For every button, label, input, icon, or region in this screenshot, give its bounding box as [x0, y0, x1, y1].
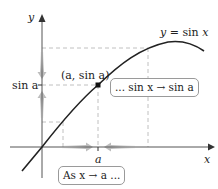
- x-axis-arrow-icon: [208, 144, 215, 151]
- sine-curve: [22, 41, 204, 171]
- point-label: (a, sin a): [61, 70, 109, 81]
- y-tick-label: sin a: [12, 80, 38, 91]
- curve-label: y = sin x: [160, 27, 208, 38]
- dashed-guides: [42, 48, 148, 147]
- annotation-x-box: As x → a ...: [58, 166, 125, 185]
- y-axis-arrow-icon: [39, 14, 46, 22]
- x-axis-label: x: [204, 154, 210, 165]
- axes: [10, 22, 208, 178]
- y-axis-label: y: [28, 12, 34, 23]
- x-tick-label: a: [95, 154, 102, 165]
- annotation-sin-x-box: ... sin x → sin a: [110, 78, 199, 97]
- point-marker: [96, 83, 101, 88]
